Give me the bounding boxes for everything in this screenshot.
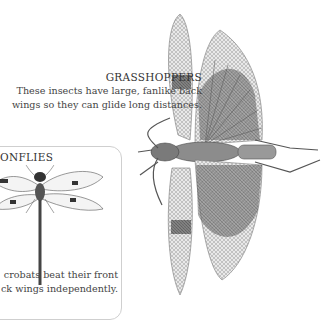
grasshopper-description-line1: These insects have large, fanlike back [2, 84, 202, 98]
dragonfly-description-line2: ck wings independently. [1, 282, 118, 296]
dragonfly-title: ONFLIES [0, 151, 53, 163]
dragonfly-description-line1: crobats beat their front [1, 268, 118, 282]
grasshopper-description-line2: wings so they can glide long distances. [2, 98, 202, 112]
grasshopper-title: GRASSHOPPERS [2, 70, 202, 84]
dragonfly-caption: crobats beat their front ck wings indepe… [1, 268, 118, 296]
grasshopper-caption: GRASSHOPPERS These insects have large, f… [2, 70, 202, 112]
